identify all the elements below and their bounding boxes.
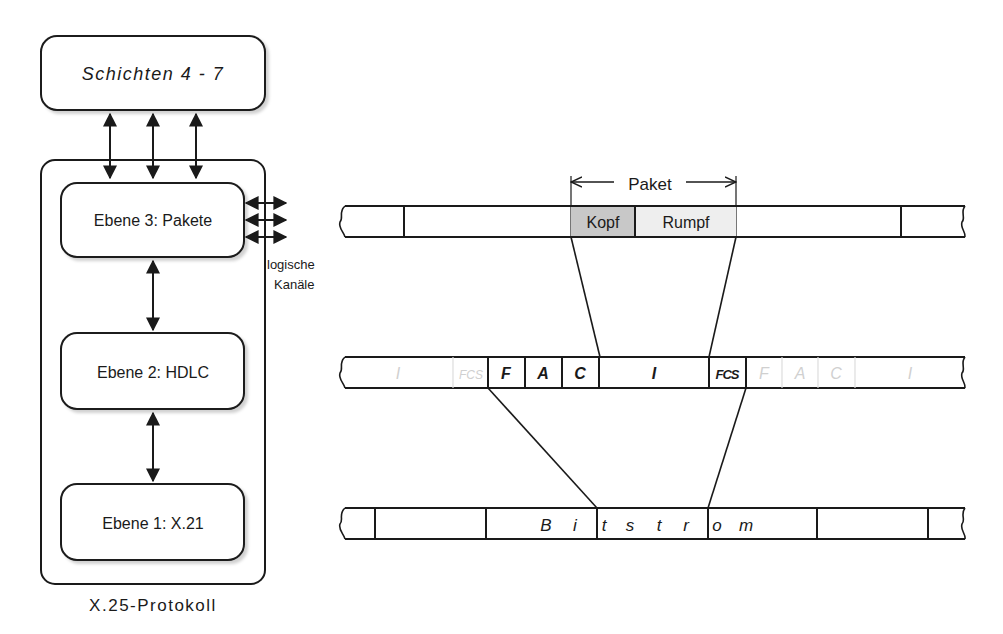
layer1-box: Ebene 1: X.21	[61, 484, 244, 560]
connector-frame-start	[488, 388, 597, 508]
vertical-arrows-top	[110, 114, 196, 178]
faded-prev-fcs: FCS	[459, 368, 483, 382]
connector-packet-start	[571, 237, 600, 357]
layer2-label: Ebene 2: HDLC	[97, 364, 209, 381]
field-control: C	[574, 365, 586, 382]
field-address: A	[536, 365, 549, 382]
layer2-box: Ebene 2: HDLC	[61, 333, 244, 409]
protocol-caption: X.25-Protokoll	[89, 596, 217, 615]
faded-next-c: C	[830, 365, 842, 382]
bit-letter-2: i	[573, 516, 578, 535]
bit-letter-4: s	[626, 516, 635, 535]
hdlc-frame-row: I FCS F A C I FCS F A C I	[340, 357, 966, 388]
top-layers-box: Schichten 4 - 7	[41, 36, 265, 110]
faded-next-f: F	[759, 365, 770, 382]
logical-channels-label-2: Kanäle	[274, 277, 314, 292]
field-information: I	[652, 365, 657, 382]
packet-row: Paket Kopf Rumpf	[340, 170, 966, 237]
field-flag: F	[501, 365, 512, 382]
connector-packet-end	[709, 237, 736, 357]
layer3-label: Ebene 3: Pakete	[94, 212, 212, 229]
layer3-box: Ebene 3: Pakete	[61, 183, 244, 257]
top-layers-label: Schichten 4 - 7	[82, 64, 225, 84]
bit-letter-6: r	[683, 516, 690, 535]
packet-header-label: Kopf	[587, 214, 620, 231]
bitstream-row: B i t s t r o m	[340, 508, 966, 539]
x25-diagram: Schichten 4 - 7 Ebene 3: Pakete logische…	[0, 0, 1003, 634]
faded-next-i: I	[908, 365, 913, 382]
bit-letter-1: B	[540, 516, 551, 535]
bit-letter-8: m	[739, 516, 753, 535]
faded-prev-i: I	[396, 365, 401, 382]
field-fcs: FCS	[716, 367, 740, 382]
bit-letter-7: o	[712, 516, 721, 535]
bit-letter-3: t	[602, 516, 608, 535]
packet-body-label: Rumpf	[662, 214, 710, 231]
connector-frame-end	[708, 388, 746, 508]
layer1-label: Ebene 1: X.21	[102, 515, 204, 532]
bit-letter-5: t	[657, 516, 663, 535]
logical-channels-label-1: logische	[267, 257, 315, 272]
packet-span-label: Paket	[628, 175, 672, 194]
faded-next-a: A	[794, 365, 806, 382]
